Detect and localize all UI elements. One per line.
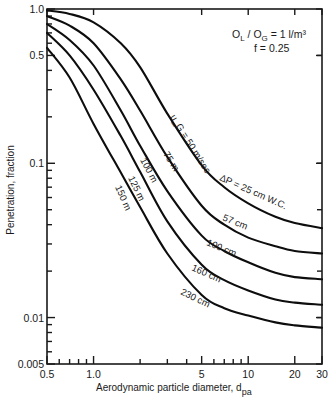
pressure-drop-label: 160 cm — [190, 262, 223, 285]
plot-frame — [47, 9, 322, 364]
y-tick-label: 0.1 — [29, 157, 44, 169]
y-tick-label: 0.005 — [18, 358, 44, 370]
y-tick-label: 0.01 — [24, 312, 45, 324]
x-tick-label: 5 — [199, 368, 205, 380]
curves — [47, 10, 322, 327]
velocity-label: 100 m — [138, 156, 160, 185]
velocity-label: 75 m — [161, 149, 182, 173]
penetration-chart: 0.51.051020301.00.50.10.010.005 u_G = 50… — [0, 0, 334, 409]
pressure-drop-label: 57 cm — [221, 212, 249, 232]
y-tick-label: 0.5 — [29, 49, 44, 61]
x-axis-title: Aerodynamic particle diameter, dpa — [96, 382, 252, 397]
series-curve-3 — [47, 33, 322, 305]
x-tick-label: 20 — [289, 368, 301, 380]
plot-area-border — [47, 9, 322, 364]
pressure-drop-label: 100 cm — [205, 237, 238, 259]
x-tick-label: 1.0 — [86, 368, 101, 380]
x-tick-label: 30 — [316, 368, 328, 380]
f-annotation: f = 0.25 — [254, 42, 289, 54]
y-axis-title: Penetration, fraction — [5, 145, 16, 235]
series-curve-2 — [47, 24, 322, 279]
y-tick-label: 1.0 — [29, 3, 44, 15]
ratio-annotation: OL / OG = 1 l/m³ — [232, 28, 307, 43]
x-tick-label: 10 — [242, 368, 254, 380]
